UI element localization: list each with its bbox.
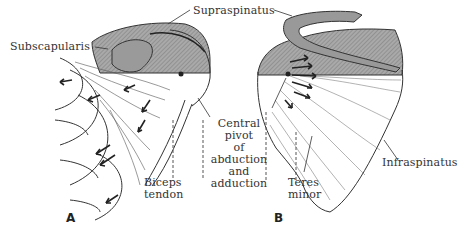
- biceps-line-2: tendon: [144, 189, 183, 201]
- rib-3: [70, 95, 108, 185]
- label-biceps-tendon: Biceps tendon: [144, 177, 183, 201]
- arrows-a: [60, 79, 150, 203]
- figure-letter-a: A: [66, 211, 75, 225]
- label-subscapularis: Subscapularis: [10, 41, 90, 53]
- rib-1: [55, 58, 83, 110]
- pivot-dot-a: [179, 72, 184, 77]
- panel-b-drawing: [258, 10, 403, 212]
- label-teres-minor: Teres minor: [288, 177, 321, 201]
- pivot-dot-b: [286, 72, 291, 77]
- label-supraspinatus: Supraspinatus: [193, 5, 275, 17]
- biceps-tendon-a: [145, 100, 185, 185]
- rotator-cuff-diagram: Supraspinatus Subscapularis Central pivo…: [0, 0, 468, 235]
- figure-letter-b: B: [274, 211, 283, 225]
- teres-line-2: minor: [288, 189, 321, 201]
- pivot-line-6: adduction: [206, 178, 272, 190]
- label-infraspinatus: Infraspinatus: [382, 157, 458, 169]
- label-central-pivot: Central pivot of abduction and adduction: [206, 118, 272, 190]
